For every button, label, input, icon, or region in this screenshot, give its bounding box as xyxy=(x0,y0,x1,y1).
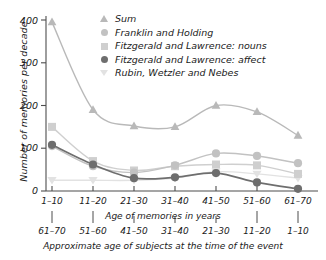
data-point xyxy=(89,160,97,168)
circle-filled-icon xyxy=(98,53,111,66)
legend-item-sum[interactable]: Sum xyxy=(98,12,308,26)
chart-container: Number of memories per decade 400 300 20… xyxy=(0,0,326,260)
x-top-tick-label: 21–30 xyxy=(111,196,157,206)
data-point xyxy=(130,174,138,182)
data-point xyxy=(294,170,302,178)
data-point xyxy=(171,161,179,169)
triangle-up-icon xyxy=(98,12,111,25)
x-top-tick-label: 51–60 xyxy=(234,196,280,206)
data-point xyxy=(253,152,261,160)
legend-label: Fitzgerald and Lawrence: nouns xyxy=(115,40,267,51)
legend-label: Fitzgerald and Lawrence: affect xyxy=(115,54,265,65)
legend-item-rubin-wetzler-nebes[interactable]: Rubin, Wetzler and Nebes xyxy=(98,66,308,80)
triangle-down-icon xyxy=(98,66,111,79)
circle-icon xyxy=(98,26,111,39)
x-top-tick-label: 41–50 xyxy=(193,196,239,206)
x-bottom-tick-label: 41–50 xyxy=(111,226,157,236)
data-point xyxy=(48,141,56,149)
data-point xyxy=(212,169,220,177)
x-bottom-axis-title: Approximate age of subjects at the time … xyxy=(0,241,326,251)
data-point xyxy=(294,159,302,167)
data-point xyxy=(253,178,261,186)
square-icon xyxy=(98,39,111,52)
data-point xyxy=(48,123,56,131)
legend-label: Sum xyxy=(115,13,136,24)
legend-label: Franklin and Holding xyxy=(115,27,213,38)
chart-legend: Sum Franklin and Holding Fitzgerald and … xyxy=(98,12,308,80)
legend-item-fitzgerald-lawrence-affect[interactable]: Fitzgerald and Lawrence: affect xyxy=(98,53,308,67)
data-point xyxy=(212,149,220,157)
x-top-axis-title: Age of memories in years xyxy=(0,211,326,221)
data-point xyxy=(253,161,261,169)
x-bottom-tick-label: 51–60 xyxy=(70,226,116,236)
data-point xyxy=(171,173,179,181)
data-point xyxy=(212,160,220,168)
x-bottom-tick-label: 1–10 xyxy=(275,226,321,236)
x-bottom-tick-label: 21–30 xyxy=(193,226,239,236)
data-point xyxy=(294,131,303,139)
data-point xyxy=(48,18,57,26)
legend-item-fitzgerald-lawrence-nouns[interactable]: Fitzgerald and Lawrence: nouns xyxy=(98,39,308,53)
x-bottom-tick-label: 31–40 xyxy=(152,226,198,236)
legend-item-franklin-and-holding[interactable]: Franklin and Holding xyxy=(98,26,308,40)
x-bottom-tick-label: 61–70 xyxy=(29,226,75,236)
data-point xyxy=(294,185,302,193)
x-top-tick-label: 1–10 xyxy=(29,196,75,206)
x-bottom-tick-label: 11–20 xyxy=(234,226,280,236)
x-top-tick-label: 11–20 xyxy=(70,196,116,206)
x-top-tick-label: 61–70 xyxy=(275,196,321,206)
legend-label: Rubin, Wetzler and Nebes xyxy=(115,67,238,78)
x-top-tick-label: 31–40 xyxy=(152,196,198,206)
